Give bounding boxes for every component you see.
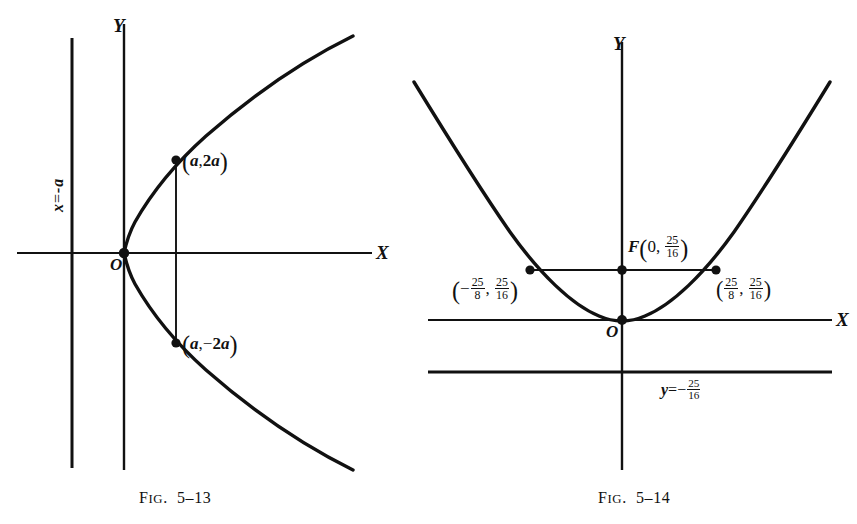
fraction-numerator: 25 xyxy=(495,276,509,288)
directrix-var: x xyxy=(49,203,66,212)
origin-label-right: O xyxy=(606,323,618,340)
figure-caption-right: FIG. 5–14 xyxy=(598,489,670,507)
caption-number: 5–14 xyxy=(636,489,670,506)
caption-smallcaps: IG xyxy=(608,492,623,506)
fraction-denominator: 16 xyxy=(665,246,679,259)
coord-x-fraction: 258 xyxy=(724,276,738,301)
focus-comma: , xyxy=(656,237,665,256)
paren-open: ( xyxy=(716,277,723,302)
fraction-numerator: 25 xyxy=(724,276,738,288)
directrix-value: -a xyxy=(49,178,66,193)
figure-5-14-panel: Y X O F(0, 2516) (−258, 2516) (258, 2516… xyxy=(400,0,857,524)
directrix-eq-sign: = xyxy=(49,193,66,203)
point-dot-lower-left-fig xyxy=(171,338,180,347)
directrix-fraction: 2516 xyxy=(687,378,700,402)
figure-5-13-panel: Y X O x=-a (a,2a) (a,−2a) FIG. 5–13 xyxy=(0,0,430,524)
figure-5-13-drawing xyxy=(0,0,430,524)
caption-prefix: F xyxy=(598,489,608,506)
paren-close: ) xyxy=(680,235,688,262)
fraction-numerator: 25 xyxy=(471,276,485,288)
paren-open: ( xyxy=(182,148,190,175)
y-axis-label-right: Y xyxy=(613,34,625,53)
fraction-numerator: 25 xyxy=(749,276,763,288)
focus-dot-right xyxy=(617,265,627,275)
origin-label-left: O xyxy=(110,256,122,273)
coord-label-lower-left-fig: (a,−2a) xyxy=(182,333,237,357)
fraction-denominator: 16 xyxy=(687,389,700,401)
coord-y-fraction: 2516 xyxy=(495,276,509,301)
paren-close: ) xyxy=(510,277,518,304)
caption-number: 5–13 xyxy=(177,489,211,506)
coord-label-left-point-right-fig: (−258, 2516) xyxy=(452,276,518,303)
caption-dot: . xyxy=(163,489,168,506)
focus-letter: F xyxy=(628,237,639,256)
figure-caption-left: FIG. 5–13 xyxy=(139,489,211,507)
x-axis-label-right: X xyxy=(836,310,849,329)
point-dot-right-right-fig xyxy=(711,265,720,274)
directrix-equation-right: y=−2516 xyxy=(661,378,701,402)
y-axis-label-left: Y xyxy=(113,16,125,35)
caption-prefix: F xyxy=(139,489,149,506)
fraction-numerator: 25 xyxy=(665,234,679,246)
focus-y-fraction: 2516 xyxy=(665,234,679,259)
fraction-denominator: 16 xyxy=(749,288,763,301)
coord-x-lower: a xyxy=(190,334,199,353)
paren-close: ) xyxy=(764,277,771,302)
coord-y-coef-lower: 2 xyxy=(212,334,221,353)
coord-minus-lower: − xyxy=(203,334,213,353)
figure-5-14-drawing xyxy=(400,0,857,524)
coord-minus-sign: − xyxy=(460,279,470,298)
origin-dot-right xyxy=(617,315,627,325)
coord-x-fraction: 258 xyxy=(471,276,485,301)
x-axis-label-left: X xyxy=(376,243,389,262)
directrix-minus-sign: − xyxy=(677,381,686,398)
point-dot-left-right-fig xyxy=(525,265,534,274)
fraction-numerator: 25 xyxy=(687,378,700,389)
focus-label-right: F(0, 2516) xyxy=(628,234,688,261)
paren-open: ( xyxy=(452,277,460,304)
coord-y-var-upper: a xyxy=(211,151,220,170)
directrix-equation-left: x=-a xyxy=(50,178,66,212)
focus-x-value: 0 xyxy=(647,237,656,256)
coord-label-right-point-right-fig: (258, 2516) xyxy=(716,276,771,302)
fraction-denominator: 8 xyxy=(724,288,738,301)
paren-close: ) xyxy=(220,148,228,175)
paren-close: ) xyxy=(229,331,237,358)
fraction-denominator: 8 xyxy=(471,288,485,301)
figure-sheet: Y X O x=-a (a,2a) (a,−2a) FIG. 5–13 xyxy=(0,0,857,524)
directrix-eq-sign: = xyxy=(668,381,677,398)
point-dot-upper-left-fig xyxy=(171,155,180,164)
coord-x-upper: a xyxy=(190,151,199,170)
coord-label-upper-left-fig: (a,2a) xyxy=(182,150,228,174)
coord-y-fraction: 2516 xyxy=(749,276,763,301)
coord-comma: , xyxy=(739,279,748,298)
coord-comma: , xyxy=(486,279,495,298)
fraction-denominator: 16 xyxy=(495,288,509,301)
caption-smallcaps: IG xyxy=(149,492,164,506)
caption-dot: . xyxy=(622,489,627,506)
paren-open: ( xyxy=(182,331,190,358)
